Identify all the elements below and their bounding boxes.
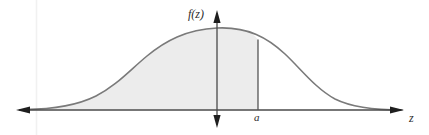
up-arrowhead-icon bbox=[213, 10, 220, 23]
density-function-label: f(z) bbox=[188, 8, 204, 20]
down-arrowhead-icon bbox=[213, 115, 220, 128]
horizontal-axis-label: z bbox=[409, 112, 414, 124]
normal-curve-diagram bbox=[0, 0, 429, 135]
left-arrowhead-icon bbox=[16, 106, 30, 113]
shaded-area-left-of-a bbox=[25, 28, 258, 110]
normal-curve-figure: f(z) a z bbox=[0, 0, 429, 135]
right-arrowhead-icon bbox=[390, 106, 404, 113]
cutoff-point-label: a bbox=[254, 112, 260, 123]
